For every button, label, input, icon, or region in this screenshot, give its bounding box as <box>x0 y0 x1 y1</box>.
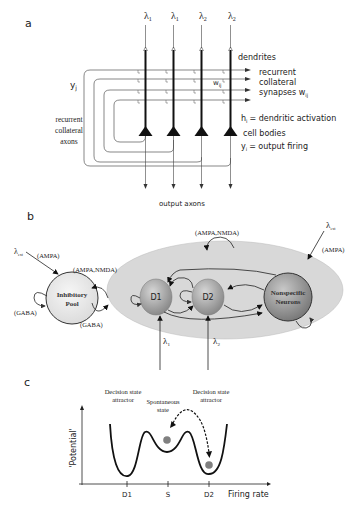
ampa-right-label: (AMPA) <box>322 246 345 254</box>
tick-d1: D1 <box>122 491 132 499</box>
transition-arrowhead-right <box>206 451 212 458</box>
panel-c-label: c <box>24 376 30 389</box>
collateral-arrowheads <box>245 68 251 102</box>
input-lines <box>144 25 233 51</box>
recurrent-axons-label-1: recurrent <box>55 115 83 124</box>
x-axis-arrow <box>267 482 271 486</box>
dendrites-label: dendrites <box>238 53 276 62</box>
decision-right-2: attractor <box>200 396 222 403</box>
panel-b-label: b <box>27 210 34 223</box>
axes <box>79 408 269 487</box>
h-label: hi= dendritic activation <box>241 114 336 124</box>
gaba-bottom-label: (GABA) <box>80 321 103 329</box>
ampa-nmda-left-label: (AMPA,NMDA) <box>73 266 117 274</box>
ball-d2 <box>205 461 213 469</box>
synapse-marks <box>138 70 225 103</box>
lambda-ext-left: λext <box>14 247 24 257</box>
decision-left-2: attractor <box>112 396 134 403</box>
nonspecific-neurons-node <box>264 273 312 321</box>
lambda-input-1: λ1 <box>144 10 152 22</box>
ampa-nmda-top-label: (AMPA,NMDA) <box>195 229 239 237</box>
lambda-input-2: λ1 <box>171 10 179 22</box>
output-arrowheads <box>144 184 233 189</box>
tick-d2: D2 <box>204 491 214 499</box>
lambda-input-3: λ2 <box>199 10 207 22</box>
nonspecific-label-2: Neurons <box>275 298 300 306</box>
decision-left-1: Decision state <box>105 388 142 395</box>
spontaneous-1: Spontaneous <box>146 398 180 405</box>
tick-s: S <box>166 491 171 499</box>
y-axis-arrow <box>80 405 84 410</box>
collateral-label: collateral <box>259 78 296 87</box>
transition-arrow <box>173 410 209 453</box>
lambda-1-label: λ1 <box>163 336 170 347</box>
ball-spontaneous <box>163 436 171 444</box>
gaba-left-label: (GABA) <box>14 309 37 317</box>
decision-right-1: Decision state <box>193 388 230 395</box>
inhibitory-pool-label-1: Inhibitory <box>57 291 88 299</box>
ampa-left-label: (AMPA) <box>37 252 60 260</box>
output-axons-label: output axons <box>159 200 205 208</box>
dendrites <box>146 50 231 128</box>
x-axis-label: Firing rate <box>228 490 269 499</box>
synapses-label: synapses wij <box>259 88 308 99</box>
recurrent-label: recurrent <box>259 68 296 77</box>
input-lambdas: λ1 λ1 λ2 λ2 <box>144 10 236 22</box>
recurrent-axons-label-2: collateral <box>55 126 83 135</box>
y-axis-label: 'Potential' <box>69 428 78 467</box>
figure: a λ1 λ1 λ2 λ2 <box>0 0 356 512</box>
lambda-ext-right: λext <box>326 220 336 231</box>
yj-label: yj <box>70 80 77 92</box>
d2-label: D2 <box>202 293 213 302</box>
lambda-input-4: λ2 <box>228 10 236 22</box>
output-axons <box>146 136 231 186</box>
wij-label: wij <box>213 79 222 89</box>
spontaneous-2: state <box>157 406 169 413</box>
nonspecific-label-1: Nonspecific <box>271 289 306 297</box>
recurrent-axons-label-3: axons <box>60 137 78 146</box>
d1-label: D1 <box>150 293 161 302</box>
panel-c: c Decision state attractor Spontaneous s… <box>24 376 271 499</box>
y-output-label: yi= output firing <box>241 142 308 152</box>
cell-bodies-label: cell bodies <box>243 129 286 138</box>
inhibitory-pool-label-2: Pool <box>65 300 78 308</box>
panel-a: a λ1 λ1 λ2 λ2 <box>25 10 336 208</box>
panel-b: b Inhibitory Pool D1 D2 Nonspecific Neur… <box>14 210 345 370</box>
cell-bodies <box>139 126 238 136</box>
panel-a-label: a <box>25 17 32 30</box>
